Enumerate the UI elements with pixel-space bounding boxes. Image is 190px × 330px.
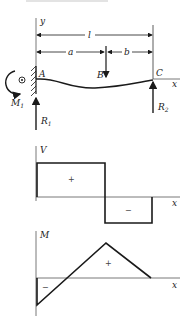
moment-negative-sign: −: [42, 283, 49, 292]
dimension-a-label: a: [68, 47, 73, 57]
moment-diagram: M x + −: [36, 230, 180, 316]
clipped-caption: [26, 0, 108, 2]
beam-diagram: y l a b B A C x: [6, 16, 180, 130]
point-a-label: A: [38, 69, 46, 79]
moment-y-label: M: [39, 230, 50, 240]
moment-x-label: x: [172, 280, 177, 290]
deflected-beam: [36, 79, 153, 88]
point-c-label: C: [156, 68, 163, 78]
shear-negative-sign: −: [125, 206, 132, 215]
reaction-r1-label: R1: [40, 116, 52, 127]
beam-figure: y l a b B A C x: [0, 0, 190, 330]
reaction-r2-label: R2: [157, 102, 169, 113]
moment-positive-sign: +: [105, 259, 112, 268]
point-b-label: B: [96, 70, 104, 80]
moment-curve: [37, 243, 151, 305]
shear-curve: [37, 163, 152, 223]
shear-positive-sign: +: [68, 175, 75, 184]
shear-diagram: V x + −: [36, 145, 180, 223]
dimension-b-label: b: [124, 47, 130, 57]
shear-x-label: x: [172, 198, 177, 208]
beam-y-label: y: [39, 16, 46, 26]
moment-m1: M1: [6, 71, 25, 109]
moment-m1-label: M1: [10, 98, 24, 109]
fixed-support: [31, 66, 36, 96]
dimension-l-label: l: [88, 30, 91, 40]
shear-y-label: V: [40, 145, 48, 155]
beam-x-label: x: [172, 79, 177, 89]
